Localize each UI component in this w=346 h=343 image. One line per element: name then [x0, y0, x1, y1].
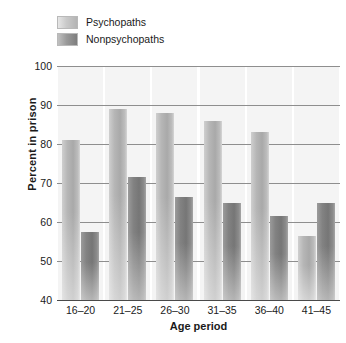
- legend-item-psychopaths: Psychopaths: [57, 14, 257, 30]
- y-tick-label-100: 100: [22, 61, 52, 71]
- bar-psychopaths-16–20: [62, 140, 80, 300]
- bar-nonpsychopaths-41–45: [317, 203, 335, 301]
- bar-nonpsychopaths-16–20: [81, 232, 99, 300]
- chart-legend: Psychopaths Nonpsychopaths: [57, 14, 257, 48]
- x-tick-label-36–40: 36–40: [246, 304, 293, 316]
- legend-swatch-nonpsychopaths: [57, 33, 78, 46]
- bar-psychopaths-21–25: [109, 109, 127, 300]
- plot-area: [57, 66, 340, 300]
- bar-nonpsychopaths-21–25: [128, 177, 146, 300]
- bar-psychopaths-31–35: [204, 121, 222, 300]
- x-tick-label-31–35: 31–35: [199, 304, 246, 316]
- y-tick-label-90: 90: [22, 100, 52, 110]
- bar-psychopaths-41–45: [298, 236, 316, 300]
- gridline-40: [57, 300, 340, 301]
- legend-swatch-psychopaths: [57, 16, 78, 29]
- y-tick-label-70: 70: [22, 178, 52, 188]
- x-tick-label-26–30: 26–30: [151, 304, 198, 316]
- y-axis-ticks: 405060708090100: [14, 0, 52, 343]
- bar-series-container: [57, 66, 340, 300]
- bar-nonpsychopaths-26–30: [175, 197, 193, 300]
- x-tick-label-16–20: 16–20: [57, 304, 104, 316]
- bar-nonpsychopaths-36–40: [270, 216, 288, 300]
- x-axis-label: Age period: [57, 320, 340, 332]
- legend-label-psychopaths: Psychopaths: [86, 16, 146, 28]
- y-tick-label-50: 50: [22, 256, 52, 266]
- y-tick-label-80: 80: [22, 139, 52, 149]
- legend-label-nonpsychopaths: Nonpsychopaths: [86, 33, 164, 45]
- bar-psychopaths-26–30: [156, 113, 174, 300]
- bar-psychopaths-36–40: [251, 132, 269, 300]
- y-tick-label-60: 60: [22, 217, 52, 227]
- y-tick-label-40: 40: [22, 295, 52, 305]
- x-tick-label-21–25: 21–25: [104, 304, 151, 316]
- x-tick-label-41–45: 41–45: [293, 304, 340, 316]
- legend-item-nonpsychopaths: Nonpsychopaths: [57, 31, 257, 47]
- bar-chart: Psychopaths Nonpsychopaths Percent in pr…: [0, 0, 346, 343]
- bar-nonpsychopaths-31–35: [223, 203, 241, 301]
